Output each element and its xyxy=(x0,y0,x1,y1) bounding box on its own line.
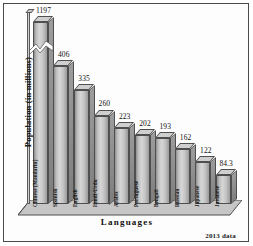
bar-value-label: 335 xyxy=(64,74,104,83)
chart-annotation: 2013 data xyxy=(205,232,236,240)
chart-container: Population (in millions) 1197Chinese (Ma… xyxy=(0,0,253,246)
bar-category-label: English xyxy=(72,189,78,207)
bar-spanish xyxy=(53,66,68,204)
bar-category-label: Japanese xyxy=(194,186,200,207)
y-axis-label: Population (in millions) xyxy=(23,32,33,172)
bar-value-label: 122 xyxy=(186,146,226,155)
bar-category-label: Arabic xyxy=(113,191,119,207)
bar-category-label: Portuguese xyxy=(133,181,139,207)
bar-front-face xyxy=(53,66,68,204)
bar-category-label: Russian xyxy=(174,188,180,207)
bar-value-label: 260 xyxy=(84,99,124,108)
bar-value-label: 84.3 xyxy=(206,159,246,168)
chart-frame: Population (in millions) 1197Chinese (Ma… xyxy=(3,3,249,242)
bar-side-face xyxy=(231,170,237,204)
bar-category-label: Hindi-Urdu xyxy=(92,179,98,207)
bars-plot-area: 1197Chinese (Mandarin)406Spanish335Engli… xyxy=(4,4,250,216)
bar-category-label: Bengali xyxy=(153,189,159,207)
bar-value-label: 193 xyxy=(145,122,185,131)
bar-value-label: 162 xyxy=(166,133,206,142)
x-axis-label: Languages xyxy=(4,217,250,227)
bar-category-label: Spanish xyxy=(52,188,58,207)
bar-category-label: Javanese xyxy=(214,186,220,207)
